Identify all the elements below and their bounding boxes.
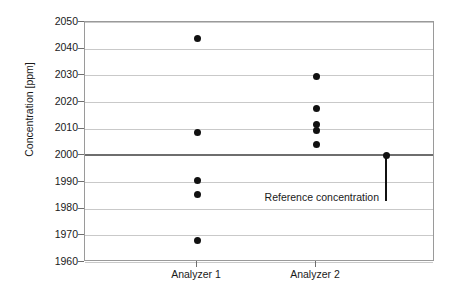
y-tick-mark-2020	[78, 101, 84, 102]
data-point	[313, 105, 320, 112]
data-point	[194, 237, 201, 244]
y-tick-label-1970: 1970	[38, 229, 78, 240]
data-point	[194, 35, 201, 42]
y-tick-mark-1980	[78, 208, 84, 209]
gridline-2030	[85, 75, 433, 76]
y-tick-mark-2050	[78, 21, 84, 22]
y-tick-label-1990: 1990	[38, 176, 78, 187]
y-tick-mark-2030	[78, 74, 84, 75]
plot-area	[84, 21, 434, 261]
y-tick-mark-1990	[78, 181, 84, 182]
y-tick-label-1960: 1960	[38, 256, 78, 267]
data-point	[313, 127, 320, 134]
gridline-2010	[85, 129, 433, 130]
gridline-2040	[85, 49, 433, 50]
y-tick-mark-2010	[78, 128, 84, 129]
y-tick-label-1980: 1980	[38, 202, 78, 213]
data-point	[194, 129, 201, 136]
y-tick-label-2010: 2010	[38, 122, 78, 133]
gridline-1960	[85, 262, 433, 263]
y-tick-label-2030: 2030	[38, 69, 78, 80]
data-point	[194, 177, 201, 184]
x-tick-mark-2	[315, 261, 316, 267]
reference-concentration-annotation: Reference concentration	[265, 191, 384, 203]
gridline-1990	[85, 182, 433, 183]
y-tick-mark-1960	[78, 261, 84, 262]
y-axis-tick-labels: 2050204020302020201020001990198019701960	[34, 0, 78, 294]
y-axis-title: Concentration [ppm]	[24, 35, 35, 185]
x-category-label-1: Analyzer 1	[136, 268, 256, 280]
y-tick-mark-1970	[78, 234, 84, 235]
gridline-1980	[85, 209, 433, 210]
scatter-chart: Concentration [ppm] 20502040203020202010…	[0, 0, 466, 294]
gridline-1970	[85, 235, 433, 236]
gridline-2050	[85, 22, 433, 23]
y-tick-label-2020: 2020	[38, 96, 78, 107]
reference-point-marker	[383, 152, 390, 159]
annotation-leader-line	[385, 155, 387, 201]
y-tick-label-2050: 2050	[38, 16, 78, 27]
y-tick-mark-2000	[78, 154, 84, 155]
gridline-2020	[85, 102, 433, 103]
reference-line	[85, 154, 433, 156]
data-point	[194, 191, 201, 198]
y-tick-mark-2040	[78, 48, 84, 49]
x-category-label-2: Analyzer 2	[255, 268, 375, 280]
data-point	[313, 73, 320, 80]
x-tick-mark-1	[196, 261, 197, 267]
data-point	[313, 141, 320, 148]
y-tick-label-2040: 2040	[38, 42, 78, 53]
y-tick-label-2000: 2000	[38, 149, 78, 160]
